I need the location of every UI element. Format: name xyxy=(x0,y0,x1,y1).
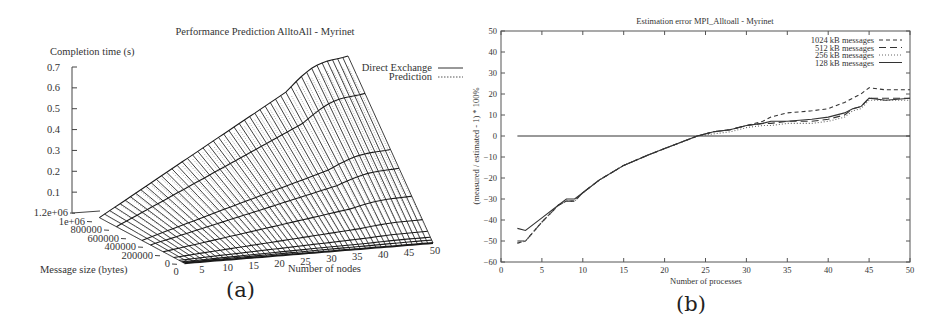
x-tick-label: 30 xyxy=(742,265,751,275)
z-tick-label: 0.7 xyxy=(47,62,60,73)
panel-a-caption: (a) xyxy=(226,278,255,302)
nodes-tick-label: 35 xyxy=(352,251,363,262)
nodes-tick-label: 10 xyxy=(223,262,234,273)
chart-b-x-axis-label: Number of processes xyxy=(670,276,742,286)
legend-prediction-label: Prediction xyxy=(389,71,433,82)
chart-b-line-chart: Estimation error MPI_Alltoall - Myrinet … xyxy=(471,16,914,286)
nodes-tick-label: 40 xyxy=(378,249,389,260)
z-tick-label: 0.3 xyxy=(47,145,60,156)
series-line xyxy=(517,98,910,241)
panel-b-caption: (b) xyxy=(676,292,706,316)
y-tick-label: 50 xyxy=(489,26,498,36)
x-tick-label: 10 xyxy=(579,265,588,275)
nodes-tick-label: 20 xyxy=(274,258,285,269)
nodes-tick-label: 5 xyxy=(199,264,204,275)
nodes-tick-label: 50 xyxy=(430,245,441,256)
z-tick-label: 0.5 xyxy=(47,103,60,114)
x-tick-label: 15 xyxy=(619,265,628,275)
chart-b-legend: 1024 kB messages512 kB messages256 kB me… xyxy=(811,35,902,68)
y-tick-label: 20 xyxy=(489,89,498,99)
chart-a-message-size-label: Message size (bytes) xyxy=(40,264,128,276)
y-tick-label: −40 xyxy=(484,215,497,225)
x-tick-label: 45 xyxy=(865,265,874,275)
z-tick-label: 0.2 xyxy=(47,166,60,177)
z-tick-label: 0.6 xyxy=(47,82,60,93)
y-tick-label: 40 xyxy=(489,47,498,57)
x-tick-label: 35 xyxy=(783,265,792,275)
x-tick-label: 20 xyxy=(660,265,669,275)
nodes-tick-label: 0 xyxy=(173,266,178,277)
chart-a-nodes-label: Number of nodes xyxy=(288,263,361,274)
chart-a-title: Performance Prediction AlltoAll - Myrine… xyxy=(175,26,354,37)
nodes-tick-label: 15 xyxy=(248,260,259,271)
z-tick-label: 0.4 xyxy=(47,124,61,135)
series-line xyxy=(517,98,910,230)
nodes-tick-label: 45 xyxy=(404,247,415,258)
y-tick-label: −30 xyxy=(484,194,497,204)
chart-a-z-ticks: 0.70.60.50.40.30.20.1 xyxy=(47,62,100,214)
series-line xyxy=(517,100,910,243)
chart-b-series-lines xyxy=(517,88,910,243)
z-tick-label: 0.1 xyxy=(47,187,60,198)
message-size-tick-label: 1.2e+06 xyxy=(34,207,68,218)
legend-entry-label: 128 kB messages xyxy=(815,58,874,68)
chart-b-y-axis-label: (measured / estimated - 1) * 100% xyxy=(471,87,481,204)
x-tick-label: 40 xyxy=(824,265,833,275)
message-size-tick-label: 0 xyxy=(165,258,170,269)
y-tick-label: −60 xyxy=(484,257,497,267)
x-tick-label: 50 xyxy=(906,265,915,275)
x-tick-label: 5 xyxy=(540,265,544,275)
y-tick-label: 10 xyxy=(489,110,498,120)
y-tick-label: −10 xyxy=(484,152,497,162)
x-tick-label: 25 xyxy=(701,265,710,275)
figure-canvas: Performance Prediction AlltoAll - Myrine… xyxy=(0,0,950,329)
chart-a-z-axis-label: Completion time (s) xyxy=(50,46,135,58)
y-tick-label: 30 xyxy=(489,68,498,78)
y-tick-label: −20 xyxy=(484,173,497,183)
chart-a-legend: Direct Exchange Prediction xyxy=(362,62,463,82)
x-tick-label: 0 xyxy=(499,265,503,275)
chart-b-title: Estimation error MPI_Alltoall - Myrinet xyxy=(636,16,774,26)
y-tick-label: −50 xyxy=(484,236,497,246)
chart-a-surface-mesh xyxy=(99,56,433,263)
chart-a-3d-surface: Performance Prediction AlltoAll - Myrine… xyxy=(34,26,463,277)
y-tick-label: 0 xyxy=(493,131,497,141)
series-line xyxy=(517,88,910,243)
